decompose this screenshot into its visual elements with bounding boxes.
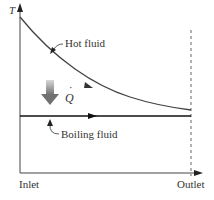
hot-fluid-leader (54, 44, 63, 49)
heat-transfer-arrow-icon (41, 80, 59, 105)
hot-fluid-label: Hot fluid (65, 38, 105, 49)
boiling-fluid-leader-arrowhead-icon (47, 119, 53, 126)
boiling-fluid-label: Boiling fluid (61, 129, 118, 140)
y-axis-label: T (9, 5, 15, 16)
heat-exchanger-diagram (0, 0, 214, 200)
x-axis (20, 170, 203, 176)
boiling-fluid-direction-arrow-icon (88, 113, 97, 119)
boiling-fluid-line (20, 113, 191, 119)
y-axis (17, 3, 23, 173)
x-axis-arrowhead-icon (194, 170, 203, 176)
hot-fluid-direction-arrow-icon (84, 82, 93, 88)
heat-rate-label: ˙ Q (65, 92, 74, 104)
inlet-label: Inlet (19, 179, 39, 190)
outlet-label: Outlet (177, 179, 205, 190)
heat-rate-dot: ˙ (68, 85, 72, 97)
y-axis-arrowhead-icon (17, 3, 23, 12)
